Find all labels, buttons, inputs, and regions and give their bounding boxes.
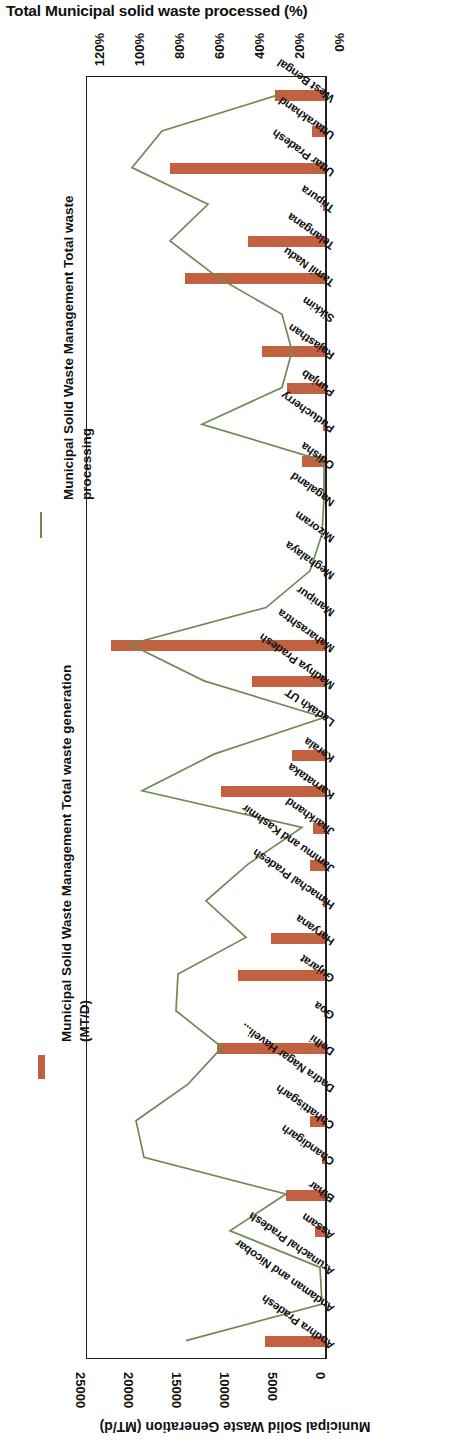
processing-line: [130, 94, 324, 1340]
primary-axis-title: Municipal Solid Waste Generation (MT/d): [0, 1419, 470, 1435]
secondary-tick-100pct: 100%: [132, 33, 147, 66]
secondary-tick-20pct: 20%: [292, 33, 307, 59]
legend-line-marker: [40, 512, 42, 538]
legend-bar-marker: [38, 1055, 45, 1079]
primary-tick-15000: 15000: [169, 1372, 184, 1408]
secondary-tick-0pct: 0%: [332, 33, 347, 52]
secondary-tick-40pct: 40%: [252, 33, 267, 59]
primary-tick-20000: 20000: [121, 1372, 136, 1408]
primary-tick-25000: 25000: [73, 1372, 88, 1408]
secondary-tick-80pct: 80%: [172, 33, 187, 59]
primary-tick-10000: 10000: [217, 1372, 232, 1408]
secondary-axis-title: Total Municipal solid waste processed (%…: [6, 2, 308, 20]
secondary-tick-120pct: 120%: [92, 33, 107, 66]
line-series: [86, 76, 326, 1359]
secondary-tick-60pct: 60%: [212, 33, 227, 59]
primary-tick-0: 0: [313, 1372, 328, 1379]
primary-tick-5000: 5000: [265, 1372, 280, 1401]
